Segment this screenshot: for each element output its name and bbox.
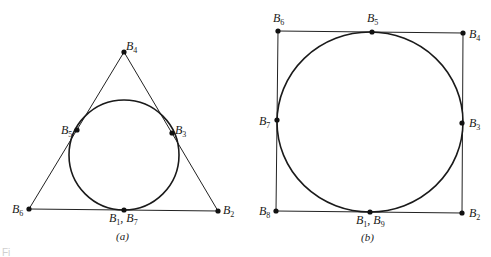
point-b7 — [274, 117, 279, 122]
figure-footer-text: Fi — [2, 247, 10, 257]
point-b5 — [369, 29, 374, 34]
label-b5: B5 — [367, 11, 378, 27]
inscribed-circle-b — [277, 32, 463, 212]
figure-canvas: B4 B5 B3 B6 B1, B7 B2 (a) B6 B5 B4 B7 B3… — [0, 0, 491, 257]
point-b6 — [275, 28, 280, 33]
point-b2 — [459, 210, 464, 215]
caption-a: (a) — [116, 230, 129, 243]
label-b3: B3 — [469, 116, 480, 132]
panel-b: B6 B5 B4 B7 B3 B8 B1, B9 B2 (b) — [259, 11, 480, 244]
label-b8: B8 — [259, 204, 270, 220]
label-b5: B5 — [61, 123, 72, 139]
label-b2: B2 — [469, 206, 480, 222]
point-b3 — [459, 120, 464, 125]
label-b6: B6 — [12, 202, 23, 218]
label-b1-b9: B1, B9 — [356, 213, 385, 229]
panel-a: B4 B5 B3 B6 B1, B7 B2 (a) — [12, 39, 234, 243]
point-b5 — [74, 127, 79, 132]
label-b2: B2 — [223, 203, 234, 219]
caption-b: (b) — [361, 231, 374, 244]
point-b6 — [26, 206, 31, 211]
point-b8 — [273, 208, 278, 213]
point-b2 — [215, 208, 220, 213]
label-b4: B4 — [126, 39, 137, 55]
label-b6: B6 — [273, 11, 284, 27]
label-b3: B3 — [175, 123, 186, 139]
inscribed-circle-a — [69, 100, 179, 210]
label-b1-b7: B1, B7 — [109, 211, 138, 227]
triangle-control-polygon — [29, 52, 218, 211]
label-b4: B4 — [469, 27, 480, 43]
label-b7: B7 — [259, 114, 270, 130]
point-b4 — [460, 30, 465, 35]
point-b3 — [169, 130, 174, 135]
